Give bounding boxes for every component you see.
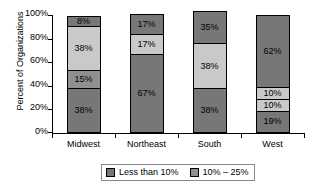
- bar-segment-label: 17%: [137, 20, 155, 29]
- bar-group[interactable]: 67%17%17%: [130, 15, 164, 133]
- y-axis-tick-mark: [48, 109, 52, 110]
- bar-segment-label: 67%: [137, 89, 155, 98]
- x-axis-tick-mark: [178, 133, 179, 138]
- y-axis-line: [52, 15, 53, 133]
- bar-segment-label: 38%: [74, 44, 92, 53]
- y-axis-tick-mark: [48, 39, 52, 40]
- bar-segment[interactable]: 38%: [67, 26, 101, 71]
- x-axis-tick-label: Midwest: [52, 139, 115, 149]
- x-axis-tick-label: South: [178, 139, 241, 149]
- stacked-bar-chart: Percent of Organizations 100%80%60%40%20…: [0, 0, 316, 187]
- bar-group[interactable]: 19%10%10%62%: [256, 15, 290, 133]
- bar-stack: 19%10%10%62%: [256, 15, 290, 133]
- y-axis-tick-label: 80%: [18, 33, 48, 42]
- bar-segment[interactable]: 17%: [130, 34, 164, 54]
- x-axis-tick-mark: [115, 133, 116, 138]
- y-axis-tick-mark: [48, 62, 52, 63]
- legend-entry[interactable]: Less than 10%: [106, 168, 179, 177]
- x-axis-tick-mark: [52, 133, 53, 138]
- bar-segment[interactable]: 38%: [67, 88, 101, 133]
- legend-swatch-icon: [190, 168, 199, 177]
- x-axis-tick-labels: MidwestNortheastSouthWest: [52, 139, 304, 153]
- chart-legend: Less than 10%10% – 25%: [101, 164, 255, 181]
- bar-segment-label: 62%: [263, 47, 281, 56]
- x-axis-tick-label: Northeast: [115, 139, 178, 149]
- bar-segment[interactable]: 10%: [256, 87, 290, 99]
- legend-label: 10% – 25%: [203, 168, 249, 177]
- legend-entry[interactable]: 10% – 25%: [190, 168, 249, 177]
- bar-segment[interactable]: 10%: [256, 99, 290, 111]
- bar-segment[interactable]: 38%: [193, 43, 227, 88]
- y-axis-tick-label: 0%: [18, 127, 48, 136]
- y-axis-tick-label: 60%: [18, 56, 48, 65]
- y-axis-tick-label: 100%: [18, 9, 48, 18]
- bar-segment-label: 35%: [200, 23, 218, 32]
- plot-area: 38%15%38%8%67%17%17%38%38%35%19%10%10%62…: [52, 15, 304, 133]
- bar-segment[interactable]: 62%: [256, 15, 290, 87]
- bar-segment[interactable]: 67%: [130, 54, 164, 133]
- bar-segment-label: 10%: [263, 101, 281, 110]
- bar-segment-label: 38%: [200, 106, 218, 115]
- legend-label: Less than 10%: [119, 168, 179, 177]
- bar-group[interactable]: 38%38%35%: [193, 15, 227, 133]
- bar-stack: 38%15%38%8%: [67, 16, 101, 133]
- bar-segment-label: 38%: [74, 106, 92, 115]
- bar-segment-label: 15%: [74, 75, 92, 84]
- bar-segment[interactable]: 15%: [67, 70, 101, 88]
- bar-segment-label: 19%: [263, 117, 281, 126]
- bar-segment-label: 38%: [200, 62, 218, 71]
- bar-segment-label: 10%: [263, 89, 281, 98]
- bar-stack: 67%17%17%: [130, 14, 164, 133]
- bar-segment[interactable]: 17%: [130, 14, 164, 34]
- bar-segment[interactable]: 19%: [256, 111, 290, 133]
- bar-segment-label: 8%: [77, 17, 90, 26]
- bar-stack: 38%38%35%: [193, 11, 227, 133]
- y-axis-tick-labels: 100%80%60%40%20%0%: [18, 14, 48, 132]
- y-axis-tick-label: 20%: [18, 103, 48, 112]
- y-axis-tick-mark: [48, 86, 52, 87]
- bar-segment[interactable]: 38%: [193, 88, 227, 133]
- bar-segment[interactable]: 8%: [67, 16, 101, 25]
- x-axis-tick-mark: [304, 133, 305, 138]
- legend-swatch-icon: [106, 168, 115, 177]
- y-axis-tick-label: 40%: [18, 80, 48, 89]
- y-axis-tick-mark: [48, 15, 52, 16]
- x-axis-tick-mark: [241, 133, 242, 138]
- bar-segment-label: 17%: [137, 40, 155, 49]
- bar-segment[interactable]: 35%: [193, 11, 227, 43]
- x-axis-tick-label: West: [241, 139, 304, 149]
- bar-group[interactable]: 38%15%38%8%: [67, 15, 101, 133]
